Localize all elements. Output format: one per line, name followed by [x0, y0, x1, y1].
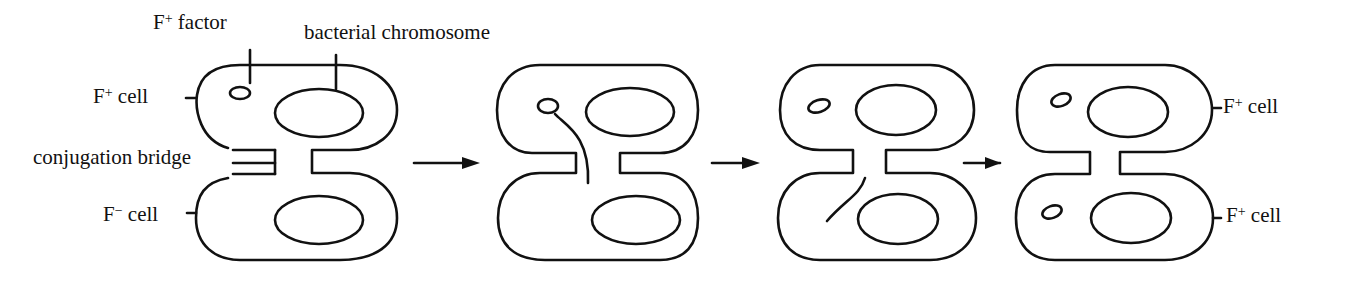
conjugation-bridge-label: conjugation bridge	[33, 147, 191, 168]
stage-1-cells	[186, 50, 397, 260]
arrow-1	[414, 157, 480, 169]
f-minus-cell-label: F− cell	[103, 204, 158, 225]
arrow-2	[712, 157, 760, 169]
right-top-f-plus-cell-label: F+ cell	[1223, 96, 1278, 117]
right-bottom-f-plus-cell-label: F+ cell	[1226, 205, 1281, 226]
f-factor-label: F+ factor	[153, 12, 227, 33]
f-plus-cell-label: F+ cell	[93, 86, 148, 107]
stage-3-cells	[778, 65, 976, 260]
bacterial-chromosome-label: bacterial chromosome	[304, 22, 490, 43]
conjugation-diagram	[0, 0, 1371, 282]
stage-2-cells	[497, 65, 698, 260]
arrow-3	[964, 157, 1001, 169]
stage-4-cells	[1016, 65, 1221, 260]
